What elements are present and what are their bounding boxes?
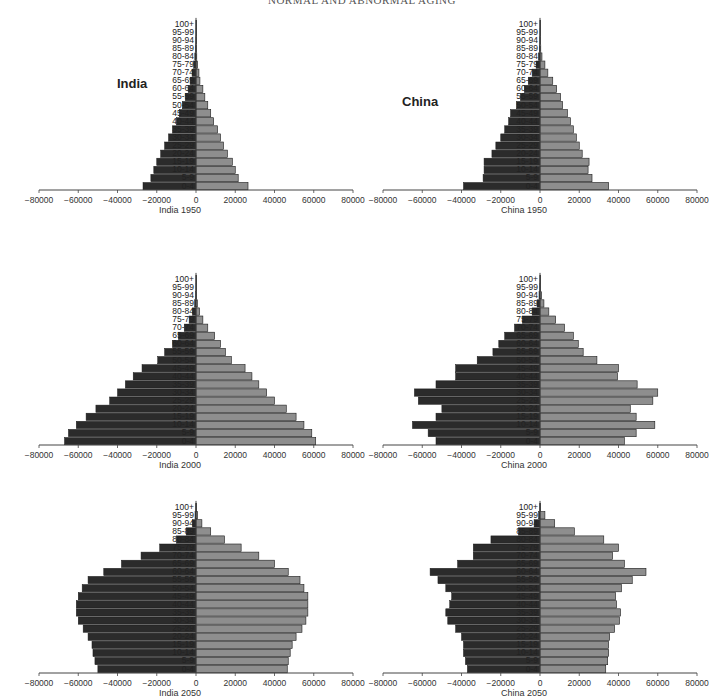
age-group-label: 100+ — [519, 274, 538, 284]
pyramid-plot: 0-45-910-1415-1920-2425-2930-3435-3940-4… — [20, 14, 360, 214]
x-tick-label: −20000 — [142, 195, 171, 205]
x-tick-label: 0 — [194, 678, 199, 688]
female-bar — [540, 609, 620, 616]
x-tick-label: 80000 — [685, 450, 709, 460]
female-bar — [540, 166, 588, 173]
x-tick-label: 40000 — [263, 678, 287, 688]
age-labels: 0-45-910-1415-1920-2425-2930-3435-3940-4… — [172, 502, 194, 674]
x-tick-label: −80000 — [369, 450, 398, 460]
x-tick-label: 80000 — [341, 678, 365, 688]
x-tick-label: 40000 — [607, 195, 631, 205]
x-tick-label: −60000 — [408, 450, 437, 460]
x-tick-label: 0 — [538, 450, 543, 460]
female-bar — [196, 625, 302, 632]
pyramid-india-2000: 0-45-910-1415-1920-2425-2930-3435-3940-4… — [20, 265, 360, 485]
female-bar — [540, 174, 592, 181]
female-bar — [540, 568, 646, 575]
female-bar — [196, 666, 287, 673]
male-bar — [436, 438, 540, 445]
age-labels: 0-45-910-1415-1920-2425-2930-3435-3940-4… — [516, 19, 538, 191]
female-bar — [540, 118, 570, 125]
x-ticks: −80000−60000−40000−200000200004000060000… — [25, 445, 365, 460]
female-bar — [196, 413, 296, 420]
female-bar — [540, 348, 583, 355]
female-bar — [540, 593, 616, 600]
x-tick-label: −20000 — [142, 450, 171, 460]
female-bar — [196, 438, 316, 445]
x-tick-label: 0 — [538, 195, 543, 205]
pyramid-plot: 0-45-910-1415-1920-2425-2930-3435-3940-4… — [364, 265, 704, 465]
x-tick-label: 20000 — [567, 195, 591, 205]
x-tick-label: −40000 — [103, 195, 132, 205]
female-bar — [196, 649, 290, 656]
pyramid-india-1950: 0-45-910-1415-1920-2425-2930-3435-3940-4… — [20, 14, 360, 234]
female-bar — [196, 357, 231, 364]
female-bar — [196, 158, 232, 165]
female-bar — [196, 126, 218, 133]
female-bar — [540, 421, 655, 428]
female-bar — [540, 585, 621, 592]
x-ticks: −80000−60000−40000−200000200004000060000… — [25, 673, 365, 688]
x-tick-label: −80000 — [25, 450, 54, 460]
female-bar — [196, 568, 288, 575]
x-tick-label: 60000 — [302, 195, 326, 205]
x-tick-label: 40000 — [607, 450, 631, 460]
female-bar — [540, 110, 567, 117]
female-bar — [196, 373, 252, 380]
x-tick-label: 0 — [194, 195, 199, 205]
country-label: China — [402, 94, 438, 109]
female-bar — [540, 429, 636, 436]
female-bar — [196, 609, 308, 616]
female-bar — [196, 593, 308, 600]
chart-caption: India 2000 — [10, 460, 350, 470]
female-bar — [540, 150, 582, 157]
female-bar — [196, 134, 221, 141]
female-bar — [540, 405, 630, 412]
male-bar — [65, 438, 196, 445]
x-tick-label: −20000 — [486, 678, 515, 688]
x-ticks: −80000−60000−40000−200000200004000060000… — [369, 673, 709, 688]
x-tick-label: −60000 — [64, 195, 93, 205]
female-bar — [196, 183, 248, 190]
female-bar — [196, 657, 288, 664]
female-bar — [196, 381, 259, 388]
female-bar — [540, 633, 610, 640]
female-bar — [196, 365, 245, 372]
age-labels: 0-45-910-1415-1920-2425-2930-3435-3940-4… — [516, 502, 538, 674]
age-group-label: 100+ — [175, 502, 194, 512]
female-bar — [196, 389, 267, 396]
female-bar — [196, 552, 259, 559]
chart-caption: China 1950 — [354, 205, 694, 215]
female-bar — [196, 421, 304, 428]
female-bar — [196, 585, 304, 592]
female-bar — [540, 126, 573, 133]
female-bar — [540, 142, 579, 149]
female-bar — [540, 552, 613, 559]
female-bar — [196, 429, 312, 436]
female-bar — [540, 158, 589, 165]
female-bar — [196, 166, 235, 173]
female-bar — [196, 520, 202, 527]
female-bar — [540, 381, 637, 388]
x-tick-label: 40000 — [263, 195, 287, 205]
x-tick-label: 20000 — [567, 678, 591, 688]
female-bar — [540, 601, 617, 608]
x-tick-label: 20000 — [223, 195, 247, 205]
female-bar — [540, 373, 618, 380]
female-bar — [196, 332, 215, 339]
female-bar — [540, 389, 658, 396]
x-tick-label: 40000 — [607, 678, 631, 688]
x-tick-label: 60000 — [302, 450, 326, 460]
female-bar — [540, 300, 544, 307]
female-bar — [196, 174, 238, 181]
age-group-label: 100+ — [175, 19, 194, 29]
x-tick-label: 60000 — [302, 678, 326, 688]
x-tick-label: −20000 — [142, 678, 171, 688]
female-bar — [540, 308, 549, 315]
female-bar — [540, 324, 565, 331]
female-bar — [540, 134, 576, 141]
pyramid-china-2000: 0-45-910-1415-1920-2425-2930-3435-3940-4… — [364, 265, 704, 485]
female-bar — [196, 142, 223, 149]
female-bar — [540, 357, 597, 364]
age-labels: 0-45-910-1415-1920-2425-2930-3435-3940-4… — [172, 19, 194, 191]
